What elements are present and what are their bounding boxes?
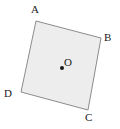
vertex-label-b: B [104,32,111,43]
geometry-figure: A B C D O [0,0,120,129]
figure-canvas [0,0,120,129]
vertex-label-c: C [85,112,92,123]
vertex-label-d: D [4,88,12,99]
vertex-label-a: A [31,4,39,15]
center-label-o: O [64,57,72,68]
quadrilateral-abcd [21,21,101,110]
